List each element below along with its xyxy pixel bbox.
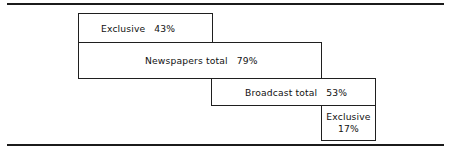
bar-value: 17%: [338, 123, 359, 135]
bar-label: Broadcast total: [245, 87, 317, 98]
bar-label: Newspapers total: [145, 55, 228, 66]
staircase-bar-chart: Exclusive 43% Newspapers total 79% Broad…: [0, 0, 451, 160]
bar-label: Exclusive: [326, 111, 370, 123]
bar-exclusive-broadcast: Exclusive 17%: [321, 105, 376, 141]
horizontal-rule-top: [7, 3, 444, 5]
bar-value: 79%: [237, 55, 258, 66]
bar-value: 43%: [154, 23, 175, 34]
bar-label: Exclusive: [101, 23, 145, 34]
bar-exclusive-newspapers: Exclusive 43%: [78, 13, 213, 43]
bar-value: 53%: [326, 87, 347, 98]
bar-broadcast-total: Broadcast total 53%: [211, 78, 376, 106]
horizontal-rule-bottom: [7, 144, 444, 146]
bar-newspapers-total: Newspapers total 79%: [78, 42, 322, 79]
